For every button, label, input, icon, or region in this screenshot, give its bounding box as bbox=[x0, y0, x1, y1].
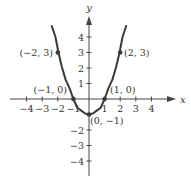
point-label: (0, −1) bbox=[90, 115, 124, 126]
point-marker bbox=[118, 50, 123, 55]
x-tick-label: 4 bbox=[148, 103, 154, 114]
x-tick-label: −4 bbox=[20, 103, 34, 114]
y-tick-label: −4 bbox=[70, 156, 84, 167]
parabola-graph: x −4 −3 −2 −1 1 2 3 4 y bbox=[0, 0, 191, 183]
point-label: (−1, 0) bbox=[33, 84, 67, 95]
point-marker bbox=[102, 97, 107, 102]
point-label: (2, 3) bbox=[124, 47, 150, 58]
x-tick-label: 2 bbox=[117, 103, 123, 114]
y-tick-label: −3 bbox=[70, 140, 84, 151]
y-tick-label: 2 bbox=[78, 63, 84, 74]
point-label: (1, 0) bbox=[110, 84, 136, 95]
point-marker bbox=[56, 50, 61, 55]
point-marker bbox=[71, 97, 76, 102]
y-tick-label: 4 bbox=[78, 32, 84, 43]
y-axis-label: y bbox=[85, 2, 92, 13]
y-tick-label: −2 bbox=[70, 125, 84, 136]
y-axis-arrow-icon bbox=[86, 16, 92, 25]
x-axis-label: x bbox=[180, 94, 186, 105]
graph-canvas: x −4 −3 −2 −1 1 2 3 4 y bbox=[0, 0, 191, 183]
y-tick-label: 1 bbox=[78, 78, 84, 89]
point-label: (−2, 3) bbox=[19, 47, 53, 58]
x-tick-label: 3 bbox=[133, 103, 139, 114]
y-tick-label: 3 bbox=[78, 47, 84, 58]
y-axis: y 4 3 2 1 −2 −3 −4 bbox=[70, 2, 92, 176]
x-tick-label: −2 bbox=[51, 103, 65, 114]
x-tick-label: −3 bbox=[35, 103, 49, 114]
x-axis-arrow-icon bbox=[167, 96, 176, 102]
